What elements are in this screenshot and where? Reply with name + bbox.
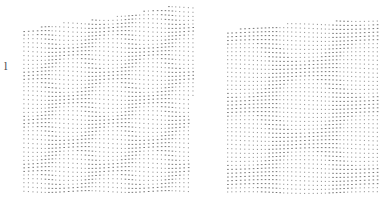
right-lattice-panel xyxy=(227,20,378,194)
moire-figure xyxy=(0,0,379,205)
left-lattice-panel xyxy=(23,6,194,193)
